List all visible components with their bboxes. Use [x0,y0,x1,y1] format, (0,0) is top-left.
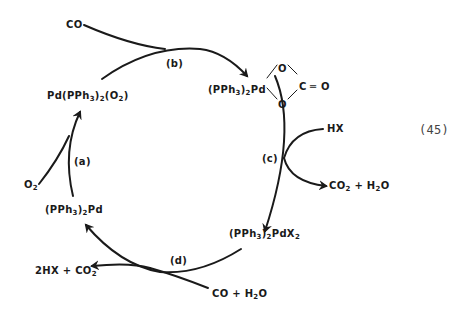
pd-zero-complex-label: (PPh3)2Pd [45,205,103,217]
step-a-label: (a) [74,157,91,167]
ring-bond-obot-c [288,90,297,99]
carbonyl-double-bond: ═ [310,82,316,92]
co-reactant-label: CO [66,20,82,30]
ring-oxygen-top: O [278,64,287,74]
co2-h2o-product-label: CO2 + H2O [329,181,390,193]
carbonyl-oxygen: O [321,82,330,92]
co-h2o-reactant-label: CO + H2O [212,289,267,301]
equation-number: (45) [419,124,449,136]
ring-oxygen-bottom: O [278,100,287,110]
step-b-label: (b) [166,59,183,69]
hx-co2-product-label: 2HX + CO2 [35,266,97,278]
pd-dihalide-complex-label: (PPh3)2PdX2 [229,229,300,241]
arrow-step-a [69,112,80,196]
pd-peroxo-complex-label: Pd(PPh3)2(O2) [47,91,129,103]
ring-bond-pd-obot [267,88,277,99]
catalytic-cycle-diagram: CO (b) Pd(PPh3)2(O2) (PPh3)2Pd O O C ═ O… [0,0,471,314]
step-d-label: (d) [170,256,187,266]
arrow-o2-in [39,136,69,184]
arrow-co2-out [284,158,326,186]
hx-reactant-label: HX [327,124,344,134]
step-c-label: (c) [262,154,278,164]
arrow-co-in [84,25,165,49]
ring-carbon: C [299,82,307,92]
o2-reactant-label: O2 [24,180,38,192]
ring-bond-otop-c [288,65,297,74]
arrow-hx-in [284,129,323,158]
pd-carbonate-complex-label: (PPh3)2Pd [208,85,266,97]
